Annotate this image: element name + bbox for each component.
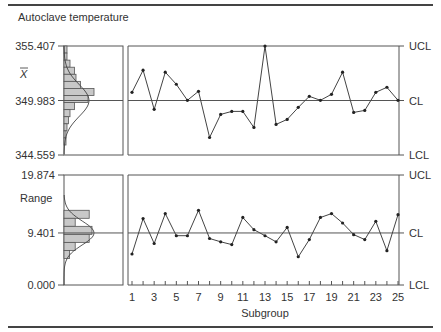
data-point: [175, 234, 178, 237]
data-point: [130, 252, 133, 255]
data-point: [308, 238, 311, 241]
data-point: [286, 118, 289, 121]
data-point: [153, 108, 156, 111]
data-point: [263, 44, 266, 47]
data-point: [396, 213, 399, 216]
y-tick-label: 349.983: [15, 95, 55, 107]
data-point: [241, 216, 244, 219]
histogram-bar: [64, 124, 67, 131]
x-tick-label: 15: [281, 291, 293, 303]
y-axis-label: Range: [20, 192, 52, 204]
histogram-bar: [64, 88, 94, 95]
data-point: [164, 212, 167, 215]
data-point: [230, 243, 233, 246]
data-point: [286, 226, 289, 229]
data-line: [132, 210, 398, 256]
data-point: [330, 212, 333, 215]
x-tick-label: 3: [151, 291, 157, 303]
y-tick-label: 344.559: [15, 149, 55, 161]
data-point: [141, 217, 144, 220]
x-tick-label: 25: [392, 291, 404, 303]
control-chart: 355.407349.983344.559XUCLCLLCL19.8749.40…: [0, 0, 441, 332]
control-limit-label: LCL: [409, 279, 429, 291]
y-axis-label: X: [19, 68, 28, 80]
y-tick-label: 0.000: [27, 279, 55, 291]
histogram-bar: [64, 250, 70, 258]
data-point: [219, 240, 222, 243]
data-point: [274, 123, 277, 126]
data-point: [252, 228, 255, 231]
data-point: [363, 109, 366, 112]
x-tick-label: 17: [303, 291, 315, 303]
histogram-bar: [64, 242, 75, 250]
x-tick-label: 21: [348, 291, 360, 303]
data-point: [153, 242, 156, 245]
histogram-bar: [64, 234, 89, 242]
control-limit-label: LCL: [409, 149, 429, 161]
data-point: [297, 106, 300, 109]
data-point: [130, 91, 133, 94]
data-point: [396, 99, 399, 102]
histogram-bar: [64, 103, 75, 110]
y-tick-label: 19.874: [21, 169, 55, 181]
x-tick-label: 1: [129, 291, 135, 303]
data-point: [175, 83, 178, 86]
y-tick-label: 355.407: [15, 40, 55, 52]
x-tick-label: 11: [237, 291, 248, 303]
data-point: [352, 111, 355, 114]
data-point: [352, 233, 355, 236]
data-point: [197, 209, 200, 212]
data-point: [319, 99, 322, 102]
x-tick-label: 5: [173, 291, 179, 303]
data-line: [132, 46, 398, 137]
histogram-bar: [64, 67, 75, 74]
x-tick-label: 19: [325, 291, 337, 303]
data-point: [230, 110, 233, 113]
x-tick-label: 9: [218, 291, 224, 303]
control-limit-label: CL: [409, 227, 423, 239]
data-point: [252, 126, 255, 129]
data-point: [274, 240, 277, 243]
data-point: [208, 136, 211, 139]
data-point: [385, 249, 388, 252]
x-tick-label: 13: [259, 291, 271, 303]
x-tick-label: 23: [370, 291, 382, 303]
control-limit-label: UCL: [409, 169, 431, 181]
data-point: [241, 110, 244, 113]
histogram-bar: [64, 96, 88, 103]
histogram-bar: [64, 110, 70, 117]
data-point: [186, 99, 189, 102]
y-tick-label: 9.401: [27, 227, 55, 239]
histogram-bar: [64, 74, 76, 81]
histogram-bar: [64, 218, 75, 226]
data-point: [385, 86, 388, 89]
data-point: [374, 91, 377, 94]
histogram-bar: [64, 81, 81, 88]
x-axis-label: Subgroup: [241, 307, 289, 319]
data-point: [330, 93, 333, 96]
histogram-bar: [64, 117, 69, 124]
data-point: [263, 234, 266, 237]
data-point: [308, 95, 311, 98]
data-point: [297, 255, 300, 258]
control-limit-label: UCL: [409, 40, 431, 52]
data-point: [141, 69, 144, 72]
data-point: [208, 237, 211, 240]
control-limit-label: CL: [409, 95, 423, 107]
x-tick-label: 7: [195, 291, 201, 303]
data-point: [341, 71, 344, 74]
data-point: [197, 90, 200, 93]
data-point: [374, 220, 377, 223]
data-point: [319, 216, 322, 219]
data-point: [363, 238, 366, 241]
data-point: [341, 221, 344, 224]
data-point: [164, 71, 167, 74]
data-point: [186, 234, 189, 237]
data-point: [219, 113, 222, 116]
